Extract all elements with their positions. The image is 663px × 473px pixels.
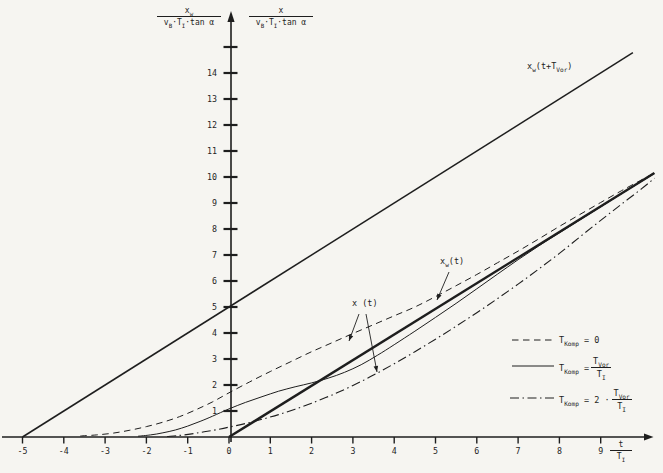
x-tick-label: 5 [433,446,438,456]
y-axis-left-label-numerator: xw [157,6,221,17]
x-axis-arrow-icon [644,433,654,440]
x-tick-label: 1 [268,446,273,456]
y-tick-label: 12 [207,120,217,130]
legend-label-tkomp-tvor: TKomp = [559,363,589,373]
x-tick-label: 4 [392,446,397,456]
legend-entry-tkomp-tvor: TKomp = TVor TI [559,356,611,379]
label-xw-lead: xw(t+TVor) [527,62,572,71]
x-tick-label: -4 [59,446,69,456]
y-tick-label: 11 [207,146,217,156]
legend-label-tkomp-2tvor: TKomp = 2 · [559,395,610,405]
series-xw-lead-line [23,53,633,437]
y-tick-label: 7 [212,250,217,260]
y-axis-left-label-denominator: vB·TI·tan α [157,17,221,27]
legend-label-tkomp-0: TKomp = 0 [559,335,599,345]
arrow-x-t-dashdot [366,314,377,372]
chart-page: -5-4-3-2-101234567891234567891011121314 … [0,0,663,473]
x-tick-label: 7 [516,446,521,456]
x-tick-label: 9 [598,446,603,456]
legend-fraction-tvor: TVor TI [591,356,611,379]
y-tick-label: 13 [207,94,217,104]
arrow-x-t-dashed-head [349,335,353,341]
arrow-xw-t-head [437,294,442,300]
x-axis-label: t TI [610,440,632,461]
y-axis-right-label-numerator: x [249,6,313,17]
y-tick-label: 10 [207,172,217,182]
label-x-t: x (t) [352,299,378,308]
y-axis-right-label: x vB·TI·tan α [249,6,313,27]
x-tick-label: -3 [100,446,110,456]
y-tick-label: 3 [212,354,217,364]
x-tick-label: -1 [183,446,193,456]
legend-entry-tkomp-2tvor: TKomp = 2 · TVor TI [559,388,632,411]
x-axis-label-denominator: TI [610,451,632,461]
y-tick-label: 9 [212,198,217,208]
y-tick-label: 5 [212,302,217,312]
x-tick-label: 0 [227,446,232,456]
y-axis-right-label-denominator: vB·TI·tan α [249,17,313,27]
x-tick-label: -2 [141,446,151,456]
legend-entry-tkomp-0: TKomp = 0 [559,335,599,345]
arrow-x-t-dashdot-head [374,366,379,372]
x-tick-label: -5 [18,446,28,456]
y-axis-left-label: xw vB·TI·tan α [157,6,221,27]
y-tick-label: 8 [212,224,217,234]
x-tick-label: 6 [474,446,479,456]
y-tick-label: 2 [212,380,217,390]
x-tick-label: 2 [309,446,314,456]
x-tick-label: 3 [350,446,355,456]
y-tick-label: 14 [207,68,217,78]
y-tick-label: 6 [212,276,217,286]
y-tick-label: 4 [212,328,217,338]
y-axis-arrow-icon [227,11,234,22]
x-axis-label-numerator: t [610,440,632,451]
label-xw-t: xw(t) [440,257,464,266]
legend-fraction-2tvor: TVor TI [612,388,632,411]
x-tick-label: 8 [557,446,562,456]
